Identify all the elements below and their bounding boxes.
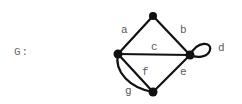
edge-label-a: a (121, 24, 128, 36)
vertex-top (149, 12, 157, 20)
edge-label-e: e (180, 66, 187, 78)
edge-label-b: b (180, 24, 187, 36)
graph-name-label: G: (14, 46, 29, 58)
edge-label-f: f (142, 66, 149, 78)
edge-c (118, 54, 190, 55)
vertex-right (186, 51, 195, 60)
edge-label-c: c (151, 41, 158, 53)
edge-label-g: g (125, 85, 132, 97)
vertex-left (114, 50, 123, 59)
graph-svg: a b c d e f g (0, 0, 242, 104)
edge-label-d: d (218, 42, 225, 54)
graph-diagram: G: a b c d e f g (0, 0, 242, 104)
vertex-bottom (149, 88, 158, 97)
